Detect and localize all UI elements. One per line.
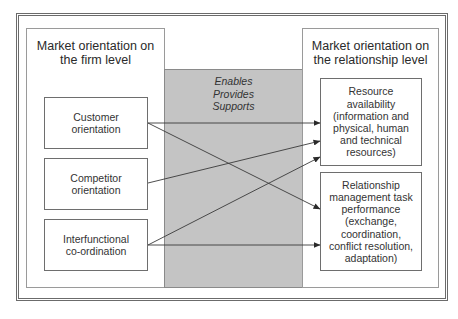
arrow-competitor-to-resource xyxy=(148,141,320,183)
arrow-customer-to-relationship xyxy=(148,123,320,209)
arrow-interfunctional-to-resource xyxy=(148,157,320,245)
connection-arrows xyxy=(0,0,458,319)
